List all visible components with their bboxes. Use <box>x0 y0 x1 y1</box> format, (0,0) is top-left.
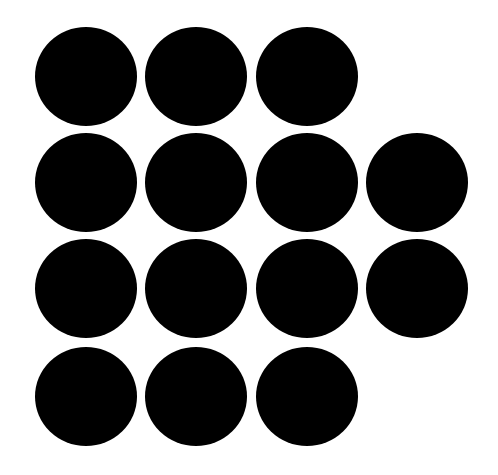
circle-dot <box>256 133 358 232</box>
circle-dot <box>366 133 468 232</box>
circle-dot <box>145 239 247 338</box>
circle-dot <box>35 239 137 338</box>
circle-dot <box>256 239 358 338</box>
circle-dot <box>256 27 358 126</box>
circle-dot <box>256 347 358 446</box>
circle-dot <box>145 347 247 446</box>
circle-dot <box>35 347 137 446</box>
circle-dot <box>366 239 468 338</box>
circle-dot <box>35 27 137 126</box>
circle-dot <box>145 27 247 126</box>
circle-dot <box>35 133 137 232</box>
circle-dot <box>145 133 247 232</box>
